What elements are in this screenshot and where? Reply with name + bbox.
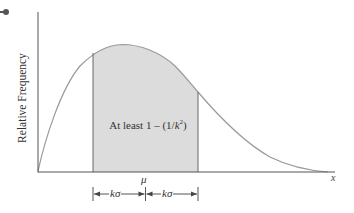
arrowhead-icon (139, 192, 145, 197)
mean-label: μ (141, 173, 147, 185)
y-axis-label: Relative Frequency (16, 48, 28, 148)
interval-left-label: kσ (109, 187, 121, 199)
arrowhead-icon (94, 192, 100, 197)
region-label-text: At least 1 – (1/ (109, 119, 174, 131)
region-label-close: ) (183, 119, 187, 131)
distribution-plot (0, 0, 354, 213)
interval-right-label: kσ (161, 187, 173, 199)
arrowhead-icon (191, 192, 197, 197)
shaded-region (93, 45, 198, 173)
arrowhead-icon (147, 192, 153, 197)
shaded-region-label: At least 1 – (1/k2) (104, 118, 192, 131)
x-axis-label: x (331, 172, 335, 183)
